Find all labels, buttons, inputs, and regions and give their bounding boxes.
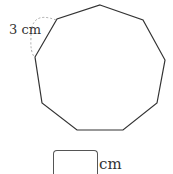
answer-unit-label: cm bbox=[99, 155, 122, 173]
answer-input-box[interactable] bbox=[53, 150, 98, 174]
nonagon-shape bbox=[35, 5, 165, 130]
side-length-label: 3 cm bbox=[9, 22, 41, 37]
